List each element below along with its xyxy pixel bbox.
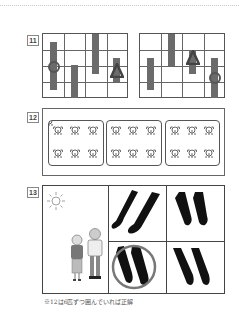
triangle-marker-icon xyxy=(110,63,124,78)
q12-box xyxy=(42,108,225,176)
sun-icon xyxy=(47,192,65,210)
shadow-panel-top-right[interactable] xyxy=(169,190,224,238)
shadow-panel-top-left[interactable] xyxy=(110,188,165,240)
animal-group xyxy=(165,120,220,166)
q13-box xyxy=(42,185,225,294)
question-number-12: 12 xyxy=(27,112,39,123)
question-number-13: 13 xyxy=(27,187,39,198)
question-number-11: 11 xyxy=(27,35,39,46)
bar xyxy=(92,34,99,74)
footnote: ※12は6匹ずつ囲んでいれば正解 xyxy=(44,297,133,306)
bar xyxy=(71,65,78,98)
shadow-panel-bottom-right[interactable] xyxy=(169,245,224,293)
grandfather-figure xyxy=(86,228,104,282)
bar xyxy=(147,58,154,90)
q11-grid-right xyxy=(139,33,225,98)
animal-group xyxy=(106,120,162,166)
shadow-panel-bottom-left[interactable] xyxy=(110,243,165,293)
animal-group xyxy=(48,120,104,166)
circle-marker-icon xyxy=(48,61,60,73)
bar xyxy=(168,34,175,66)
circle-marker-icon xyxy=(209,72,221,84)
top-dotted-divider xyxy=(0,5,239,6)
triangle-marker-icon xyxy=(186,50,200,65)
grandmother-figure xyxy=(69,234,85,282)
q11-grid-left xyxy=(42,33,128,98)
